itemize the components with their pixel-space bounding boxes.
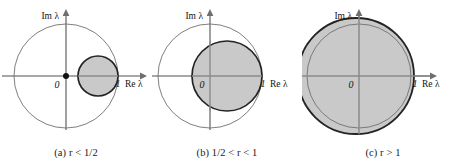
panel-a: 0 1 Re λ Im λ (a) r < 1/2 <box>0 0 152 162</box>
panel-a-plot: 0 1 Re λ Im λ <box>0 0 152 140</box>
panel-c-plot: 0 1 Re λ Im λ <box>302 0 464 140</box>
unit-tick-label-a: 1 <box>116 78 121 89</box>
caption-a: (a) r < 1/2 <box>0 147 152 158</box>
imag-axis-label-a: Im λ <box>41 11 59 21</box>
imag-axis-arrow-c <box>356 9 363 16</box>
real-axis-label-b: Re λ <box>270 79 288 89</box>
panel-c: 0 1 Re λ Im λ (c) r > 1 <box>302 0 464 162</box>
unit-tick-label-b: 1 <box>261 78 266 89</box>
caption-b: (b) 1/2 < r < 1 <box>152 147 302 158</box>
origin-label-c: 0 <box>349 79 354 90</box>
origin-label-b: 0 <box>200 79 205 90</box>
origin-dot-a <box>63 73 69 79</box>
real-axis-label-a: Re λ <box>125 79 143 89</box>
panel-b-plot: 0 1 Re λ Im λ <box>152 0 302 140</box>
origin-label-a: 0 <box>55 79 60 90</box>
imag-axis-label-c: Im λ <box>334 11 352 21</box>
caption-c: (c) r > 1 <box>302 147 464 158</box>
unit-tick-label-c: 1 <box>413 78 418 89</box>
imag-axis-arrow-a <box>63 9 70 16</box>
imag-axis-arrow-b <box>207 9 214 16</box>
real-axis-label-c: Re λ <box>422 79 440 89</box>
panel-b: 0 1 Re λ Im λ (b) 1/2 < r < 1 <box>152 0 302 162</box>
imag-axis-label-b: Im λ <box>185 11 203 21</box>
figure-root: 0 1 Re λ Im λ (a) r < 1/2 0 1 Re λ I <box>0 0 464 162</box>
